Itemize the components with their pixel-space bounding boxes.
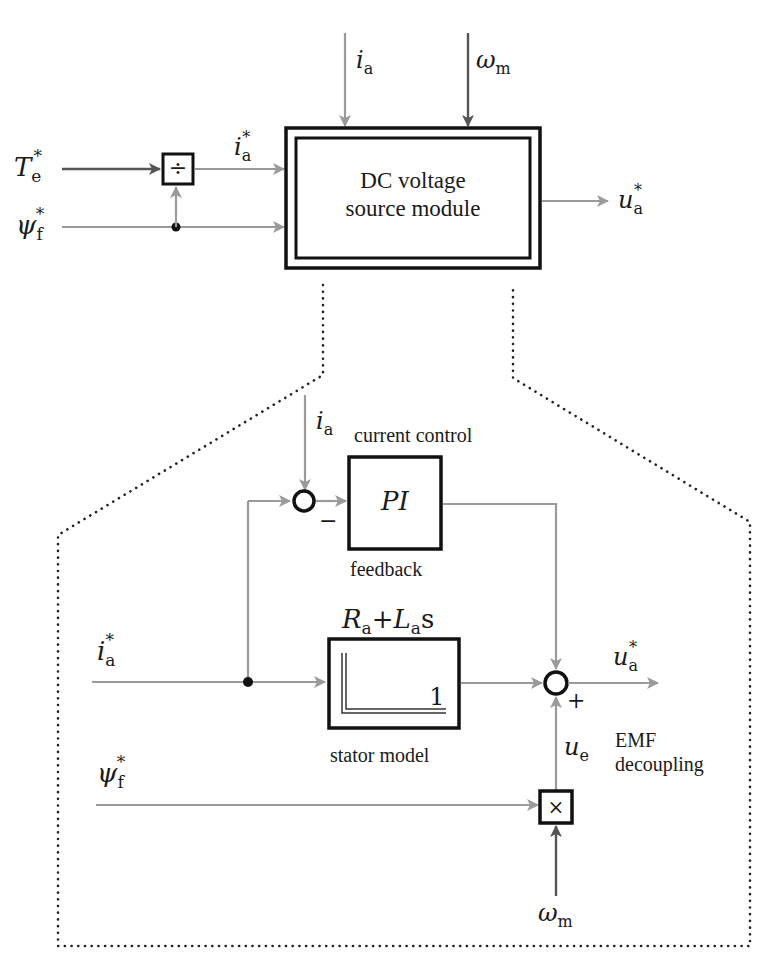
module-output-label: ua* [618,181,643,218]
detail-branch-node [243,677,253,687]
module-label-line1: DC voltage [360,168,465,193]
emf-label-line2: decoupling [615,753,704,776]
stator-tf-numerator: Ra+Las [341,604,434,638]
detail-current-feedback-label: ia [316,407,334,439]
emf-label-line1: EMF [615,729,656,751]
emf-signal-label: ue [564,733,589,765]
minus-sign: − [319,508,337,533]
sum-junction-output [545,672,567,694]
speed-label: ωm [476,46,511,78]
detail-speed-label: ωm [538,899,573,931]
divide-icon: ÷ [169,156,187,181]
plus-sign: + [567,688,585,713]
current-control-label: current control [354,424,473,446]
detail-section: ia current control − PI feedback Ra+Las … [92,395,704,931]
pi-label: PI [380,486,409,516]
torque-ref-label: Te* [14,146,42,186]
block-diagram: ia ωm Te* ÷ ia* ψf* DC voltage source [0,0,780,974]
module-label-line2: source module [346,196,481,221]
detail-flux-ref-label: ψf* [97,752,126,792]
sum-junction-feedback [294,491,314,511]
detail-output-label: ua* [613,638,638,675]
stator-tf-denominator: 1 [429,683,444,711]
stator-model-label: stator model [330,744,430,766]
current-ref-label: ia* [234,128,252,165]
flux-ref-label: ψf* [16,204,45,244]
top-section: ia ωm Te* ÷ ia* ψf* DC voltage source [14,33,643,268]
feedback-label: feedback [350,558,422,580]
multiply-icon: × [548,795,565,819]
current-feedback-label: ia [356,46,374,78]
detail-current-ref-label: ia* [97,630,115,670]
